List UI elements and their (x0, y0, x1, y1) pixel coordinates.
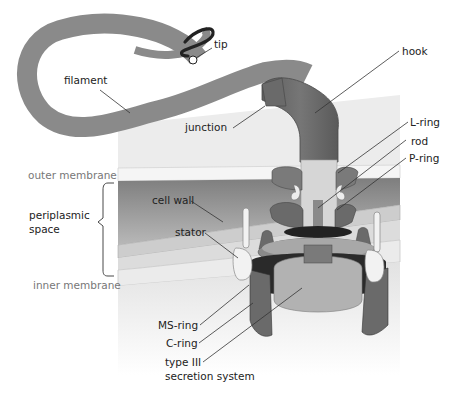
leader-filament (100, 90, 130, 113)
label-periplasmic-line1: periplasmic (29, 209, 90, 221)
label-type3-line2: secretion system (165, 370, 255, 382)
label-rod: rod (411, 135, 428, 147)
label-p-ring: P-ring (409, 152, 439, 164)
label-stator: stator (175, 226, 206, 238)
label-tip: tip (214, 38, 228, 50)
c-ring-left (250, 270, 272, 336)
label-c-ring: C-ring (166, 337, 198, 349)
export-gate (304, 245, 332, 263)
label-ms-ring: MS-ring (158, 319, 198, 331)
flagellum-diagram (0, 0, 464, 403)
label-inner-membrane: inner membrane (33, 279, 121, 291)
label-hook: hook (402, 45, 428, 57)
label-periplasmic-line2: space (29, 223, 60, 235)
type-iii-secretion-system (274, 256, 362, 312)
label-type3-line1: type III (165, 356, 201, 368)
label-junction: junction (185, 121, 227, 133)
ring-base (284, 226, 352, 238)
label-l-ring: L-ring (410, 116, 440, 128)
periplasmic-brace (98, 183, 114, 276)
label-filament: filament (64, 74, 107, 86)
label-outer-membrane: outer membrane (28, 169, 117, 181)
tip-cap (189, 56, 197, 64)
label-cell-wall: cell wall (152, 194, 194, 206)
